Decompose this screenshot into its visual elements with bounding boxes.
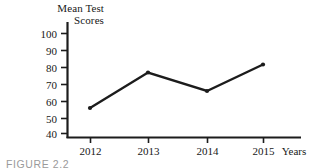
y-tick-label-80: 80 [46, 62, 58, 74]
data-point-2012 [88, 106, 92, 110]
data-point-2015 [261, 62, 265, 66]
data-line-mean-test-scores [90, 65, 263, 109]
y-tick-label-100: 100 [41, 28, 58, 40]
x-axis-tick-labels: 2012 2013 2014 2015 [80, 145, 276, 157]
x-axis-title: Years [282, 145, 307, 157]
x-tick-label-2014: 2014 [197, 145, 220, 157]
data-point-2013 [146, 70, 150, 74]
data-point-2014 [205, 89, 209, 93]
y-tick-label-90: 90 [46, 45, 58, 57]
y-tick-label-50: 50 [46, 113, 58, 125]
y-tick-label-40: 40 [46, 128, 58, 140]
x-tick-label-2015: 2015 [253, 145, 276, 157]
x-tick-label-2013: 2013 [138, 145, 161, 157]
y-tick-label-70: 70 [46, 79, 58, 91]
y-tick-label-60: 60 [46, 96, 58, 108]
data-point-markers [88, 62, 265, 110]
figure-container: Mean Test Scores 100 90 80 70 60 50 40 [0, 0, 316, 168]
x-tick-label-2012: 2012 [80, 145, 102, 157]
figure-caption: FIGURE 2.2 [6, 158, 69, 168]
y-axis-tick-labels: 100 90 80 70 60 50 40 [41, 28, 58, 140]
line-chart-plot: 100 90 80 70 60 50 40 2012 2013 2014 201… [0, 0, 316, 168]
